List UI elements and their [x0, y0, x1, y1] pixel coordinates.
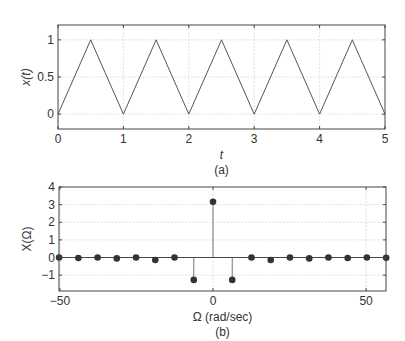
- y-tick-label: 0.5: [37, 70, 54, 84]
- stem-marker: [306, 255, 313, 262]
- stem-marker: [287, 254, 294, 261]
- stem-marker: [344, 255, 351, 262]
- stem-marker: [190, 277, 197, 284]
- x-tick-label: 4: [316, 132, 323, 146]
- y-tick-label: 3: [48, 198, 55, 212]
- y-axis-label: X(Ω): [20, 227, 34, 252]
- stem-marker: [229, 277, 236, 284]
- y-tick-label: 2: [48, 215, 55, 229]
- y-tick-label: 0: [47, 107, 54, 121]
- x-tick-label: 0: [55, 132, 62, 146]
- x-tick-label: 3: [251, 132, 258, 146]
- stem-marker: [248, 254, 255, 261]
- stem-marker: [94, 254, 101, 261]
- y-tick-label: 0: [48, 251, 55, 265]
- x-tick-label: 5: [382, 132, 389, 146]
- stem-marker: [75, 255, 82, 262]
- stem-marker: [210, 199, 217, 206]
- panel-label: (a): [214, 163, 229, 177]
- x-axis-label: t: [220, 148, 224, 162]
- x-tick-label: 50: [359, 294, 373, 308]
- chart-b: −50050−101234Ω (rad/sec)X(Ω)(b): [20, 180, 389, 339]
- stem-marker: [114, 255, 121, 262]
- y-tick-label: −1: [41, 268, 55, 282]
- x-tick-label: 1: [120, 132, 127, 146]
- x-tick-label: 2: [185, 132, 192, 146]
- y-tick-label: 1: [47, 33, 54, 47]
- figure: 01234500.51tx(t)(a) −50050−101234Ω (rad/…: [0, 0, 405, 341]
- line-series: [58, 40, 385, 114]
- stem-marker: [325, 254, 332, 261]
- panel-label: (b): [215, 325, 230, 339]
- stem-marker: [267, 257, 274, 264]
- stem-marker: [171, 254, 178, 261]
- x-tick-label: 0: [210, 294, 217, 308]
- y-axis-label: x(t): [19, 68, 33, 86]
- y-tick-label: 1: [48, 233, 55, 247]
- x-axis-label: Ω (rad/sec): [193, 310, 253, 324]
- stem-marker: [364, 254, 371, 261]
- stem-marker: [133, 254, 140, 261]
- stem-marker: [152, 257, 159, 264]
- chart-a: 01234500.51tx(t)(a): [19, 25, 389, 177]
- y-tick-label: 4: [48, 180, 55, 194]
- x-tick-label: −50: [50, 294, 71, 308]
